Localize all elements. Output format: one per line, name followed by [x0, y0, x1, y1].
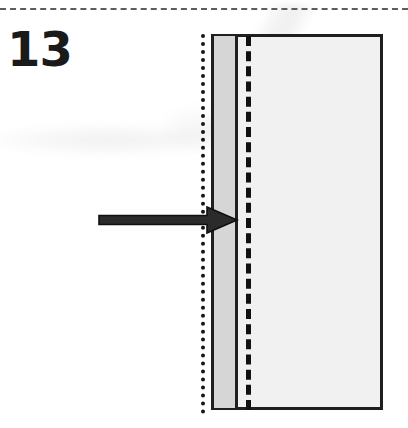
top-dashed-rule: [0, 8, 408, 10]
figure-canvas: 13: [0, 0, 408, 428]
figure-number-label: 13: [7, 25, 72, 73]
arrow-shape: [99, 207, 237, 233]
interior-dashed-line: [246, 36, 251, 410]
annotation-arrow: [95, 202, 240, 238]
